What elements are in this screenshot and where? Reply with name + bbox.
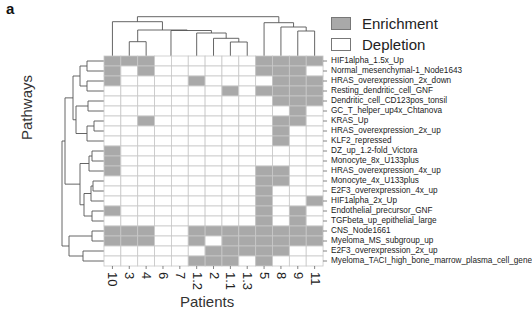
column-label: 1.3	[241, 272, 254, 290]
heatmap-cell	[289, 186, 306, 196]
heatmap-cell	[205, 126, 222, 136]
row-label: HRAS_overexpression_2x_down	[331, 76, 451, 86]
heatmap-cell	[306, 66, 323, 76]
heatmap-cell	[273, 76, 290, 86]
heatmap-cell	[306, 116, 323, 126]
column-label: 1.1	[224, 272, 237, 290]
heatmap-cell	[104, 186, 121, 196]
heatmap-cell	[121, 246, 138, 256]
heatmap-cell	[104, 76, 121, 86]
heatmap-cell	[306, 56, 323, 66]
heatmap-cell	[171, 86, 188, 96]
heatmap-cell	[205, 116, 222, 126]
heatmap-cell	[138, 206, 155, 216]
heatmap-cell	[171, 186, 188, 196]
heatmap-cell	[205, 166, 222, 176]
legend-label-enrichment: Enrichment	[362, 15, 438, 32]
heatmap-cell	[138, 76, 155, 86]
heatmap-cell	[289, 96, 306, 106]
heatmap-cell	[273, 156, 290, 166]
heatmap-cell	[222, 56, 239, 66]
heatmap-cell	[289, 86, 306, 96]
heatmap-cell	[222, 76, 239, 86]
heatmap-cell	[104, 156, 121, 166]
heatmap-cell	[256, 126, 273, 136]
heatmap-cell	[306, 236, 323, 246]
column-label: 2	[208, 272, 221, 279]
heatmap-cell	[121, 156, 138, 166]
heatmap-cell	[188, 226, 205, 236]
dendrogram-branch	[80, 164, 89, 205]
heatmap-cell	[273, 106, 290, 116]
heatmap-cell	[222, 236, 239, 246]
heatmap-cell	[222, 176, 239, 186]
heatmap-cell	[205, 256, 222, 266]
heatmap-cell	[222, 186, 239, 196]
heatmap-cell	[239, 156, 256, 166]
heatmap-cell	[289, 116, 306, 126]
heatmap-cell	[256, 66, 273, 76]
heatmap-cell	[239, 126, 256, 136]
heatmap-cell	[121, 216, 138, 226]
heatmap-cell	[104, 166, 121, 176]
heatmap-cell	[121, 256, 138, 266]
dendrogram-branch	[87, 61, 104, 71]
row-label: E2F3_overexpression_2x_up	[331, 246, 438, 256]
heatmap-cell	[205, 196, 222, 206]
heatmap-cell	[188, 256, 205, 266]
heatmap-cell	[155, 76, 172, 86]
heatmap-cell	[256, 136, 273, 146]
heatmap-cell	[256, 256, 273, 266]
heatmap-cell	[306, 96, 323, 106]
heatmap-cell	[222, 256, 239, 266]
heatmap-cell	[138, 246, 155, 256]
heatmap-cell	[306, 226, 323, 236]
heatmap-cell	[155, 216, 172, 226]
heatmap-cell	[205, 66, 222, 76]
heatmap-cell	[239, 66, 256, 76]
heatmap-cell	[273, 146, 290, 156]
heatmap-cell	[171, 76, 188, 86]
heatmap-cell	[222, 116, 239, 126]
y-axis-title: Pathways	[18, 75, 35, 140]
heatmap-cell	[121, 236, 138, 246]
heatmap-cell	[171, 196, 188, 206]
heatmap-cell	[289, 166, 306, 176]
row-label: KLF2_repressed	[331, 136, 392, 146]
heatmap-cell	[104, 146, 121, 156]
heatmap-cell	[222, 226, 239, 236]
heatmap-cell	[239, 236, 256, 246]
dendrogram-branch	[230, 42, 247, 56]
heatmap-cell	[138, 166, 155, 176]
heatmap-cell	[104, 206, 121, 216]
heatmap-cell	[121, 136, 138, 146]
heatmap-cell	[256, 96, 273, 106]
heatmap-cell	[289, 136, 306, 146]
heatmap-cell	[205, 136, 222, 146]
heatmap-cell	[138, 216, 155, 226]
heatmap-cell	[104, 66, 121, 76]
heatmap-cell	[138, 196, 155, 206]
row-label: Myeloma_TACI_high_bone_marrow_plasma_cel…	[331, 256, 532, 266]
heatmap-cell	[104, 86, 121, 96]
heatmap-cell	[205, 186, 222, 196]
heatmap-cell	[239, 96, 256, 106]
row-label: E2F3_overexpression_4x_up	[331, 186, 438, 196]
heatmap-cell	[104, 216, 121, 226]
heatmap-cell	[205, 86, 222, 96]
heatmap-cell	[121, 106, 138, 116]
heatmap-cell	[171, 156, 188, 166]
heatmap-cell	[138, 176, 155, 186]
heatmap-cell	[289, 236, 306, 246]
heatmap-cell	[155, 176, 172, 186]
heatmap-cell	[289, 76, 306, 86]
heatmap-cell	[239, 136, 256, 146]
heatmap-cell	[121, 226, 138, 236]
heatmap-cell	[273, 186, 290, 196]
heatmap-cell	[256, 176, 273, 186]
row-label: KRAS_Up	[331, 116, 368, 126]
heatmap-cell	[205, 156, 222, 166]
dendrogram-branch	[87, 126, 104, 141]
heatmap-cell	[239, 106, 256, 116]
heatmap-cell	[121, 196, 138, 206]
